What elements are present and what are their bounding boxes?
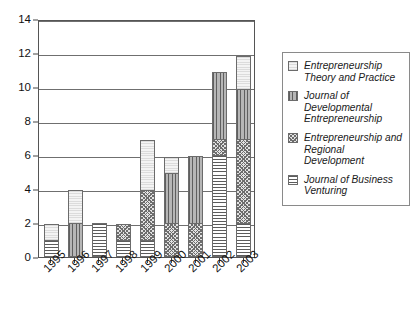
bar-segment: [140, 190, 155, 241]
legend-swatch-icon: [288, 91, 298, 101]
bar-segment: [140, 140, 155, 191]
y-tick-label: 8: [1, 116, 31, 128]
y-tick-label: 2: [1, 218, 31, 230]
legend-label: Journal of Developmental Entrepreneurshi…: [304, 90, 404, 125]
legend-item: Entrepreneurship Theory and Practice: [288, 60, 404, 83]
y-tick-label: 4: [1, 184, 31, 196]
bar-segment: [212, 139, 227, 156]
bar-segment: [212, 72, 227, 140]
bar-segment: [212, 155, 227, 257]
bar-stack: [212, 72, 227, 257]
legend-swatch-icon: [288, 133, 298, 143]
legend-swatch-icon: [288, 61, 298, 71]
legend-label: Entrepreneurship Theory and Practice: [304, 60, 404, 83]
legend-item: Entrepreneurship and Regional Developmen…: [288, 132, 404, 167]
y-tick-label: 6: [1, 150, 31, 162]
gridline: [39, 55, 254, 56]
bar-stack: [140, 140, 155, 257]
bar-segment: [68, 190, 83, 224]
bar-segment: [116, 224, 131, 241]
legend-label: Journal of Business Venturing: [304, 174, 404, 197]
legend-label: Entrepreneurship and Regional Developmen…: [304, 132, 404, 167]
y-tick-label: 12: [1, 48, 31, 60]
bar-segment: [44, 224, 59, 241]
bar-stack: [188, 156, 203, 257]
legend-swatch-icon: [288, 175, 298, 185]
y-tick-label: 14: [1, 14, 31, 26]
bar-segment: [236, 139, 251, 224]
legend: Entrepreneurship Theory and PracticeJour…: [282, 52, 410, 206]
legend-item: Journal of Developmental Entrepreneurshi…: [288, 90, 404, 125]
plot-area: [38, 20, 255, 258]
bar-stack: [164, 157, 179, 257]
bar-segment: [164, 173, 179, 224]
stacked-bar-chart-figure: 02468101214 1995199619971998199920002001…: [0, 0, 417, 324]
bar-segment: [236, 56, 251, 90]
gridline: [39, 21, 254, 22]
bar-stack: [236, 56, 251, 257]
legend-item: Journal of Business Venturing: [288, 174, 404, 197]
bar-segment: [188, 156, 203, 224]
y-tick-label: 10: [1, 82, 31, 94]
bar-segment: [164, 157, 179, 174]
bar-stack: [68, 190, 83, 257]
y-tick-label: 0: [1, 252, 31, 264]
bar-segment: [236, 89, 251, 140]
